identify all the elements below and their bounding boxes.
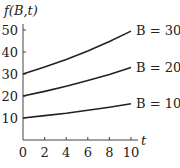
y-axis-label: f(B,t) <box>3 3 38 18</box>
series-label-b30: B = 30 <box>136 23 180 38</box>
x-tick-label: 0 <box>19 145 27 160</box>
x-tick-label: 2 <box>40 145 48 160</box>
line-chart: f(B,t) 10 20 30 40 50 0 2 4 6 <box>0 0 180 168</box>
y-tick-label: 10 <box>1 111 18 126</box>
y-ticks: 10 20 30 40 50 <box>1 23 26 126</box>
x-tick-label: 4 <box>62 145 70 160</box>
x-tick-label: 8 <box>105 145 113 160</box>
y-tick-label: 40 <box>1 45 18 60</box>
x-axis-label: t <box>141 133 147 148</box>
series-line <box>23 67 131 96</box>
series-line <box>23 104 131 118</box>
x-tick-label: 6 <box>84 145 92 160</box>
chart-svg: f(B,t) 10 20 30 40 50 0 2 4 6 <box>0 0 180 168</box>
series-lines <box>23 31 131 118</box>
y-tick-label: 20 <box>1 89 18 104</box>
series-label-b20: B = 20 <box>136 60 180 75</box>
x-tick-label: 10 <box>123 145 140 160</box>
y-tick-label: 50 <box>1 23 18 38</box>
y-tick-label: 30 <box>1 67 18 82</box>
series-label-b10: B = 10 <box>136 96 180 111</box>
series-line <box>23 31 131 74</box>
